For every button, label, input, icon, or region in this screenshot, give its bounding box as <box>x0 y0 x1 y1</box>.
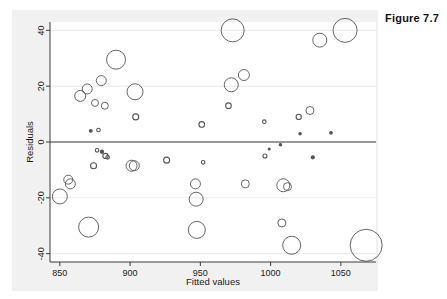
data-point <box>79 217 99 237</box>
data-point <box>330 131 333 134</box>
data-point <box>263 154 267 158</box>
data-point <box>226 103 232 109</box>
data-point <box>97 128 101 132</box>
data-point <box>201 161 205 165</box>
data-point <box>190 179 200 189</box>
data-point <box>296 114 301 119</box>
x-tick-label-1000: 1000 <box>261 268 281 278</box>
data-point <box>278 219 286 227</box>
data-point-group <box>52 18 382 261</box>
x-tick-label-1050: 1050 <box>331 268 351 278</box>
y-tick-label-20: 20 <box>36 81 46 91</box>
data-point <box>107 50 126 69</box>
data-point <box>133 114 139 120</box>
data-point <box>313 33 327 47</box>
x-tick-label-900: 900 <box>123 268 138 278</box>
data-point <box>95 149 99 153</box>
figure-caption: Figure 7.7 <box>385 12 439 24</box>
y-axis-ticks: -40-2002040 <box>36 25 50 260</box>
y-tick-label-0: 0 <box>36 139 46 144</box>
y-tick-label--40: -40 <box>36 247 46 260</box>
data-point <box>129 161 139 171</box>
data-point <box>224 78 238 92</box>
data-point <box>279 144 281 146</box>
data-point <box>91 99 98 106</box>
figure-root: -40-2002040 85090095010001050 Residuals … <box>0 0 447 299</box>
x-tick-label-850: 850 <box>52 268 67 278</box>
data-point <box>52 189 67 204</box>
data-point <box>75 90 86 101</box>
data-point <box>82 84 92 94</box>
data-point <box>89 129 92 132</box>
data-point <box>299 132 301 134</box>
data-point <box>101 102 108 109</box>
data-point <box>241 180 249 188</box>
data-point <box>268 148 270 150</box>
data-point <box>188 221 205 238</box>
data-point <box>199 122 205 128</box>
data-point <box>350 229 382 261</box>
data-point <box>311 156 314 159</box>
x-axis-title: Fitted values <box>186 276 240 287</box>
data-point <box>283 183 291 191</box>
data-point <box>283 236 301 254</box>
data-point <box>100 150 103 153</box>
y-axis-title: Residuals <box>24 121 35 163</box>
data-point <box>189 192 203 206</box>
y-tick-label-40: 40 <box>36 25 46 35</box>
data-point <box>91 163 97 169</box>
data-point <box>96 76 106 86</box>
residuals-vs-fitted-scatter-chart: -40-2002040 85090095010001050 Residuals … <box>0 0 447 299</box>
data-point <box>262 120 266 124</box>
data-point <box>306 106 314 114</box>
data-point <box>238 70 249 81</box>
data-point <box>164 157 170 163</box>
y-tick-label--20: -20 <box>36 191 46 204</box>
